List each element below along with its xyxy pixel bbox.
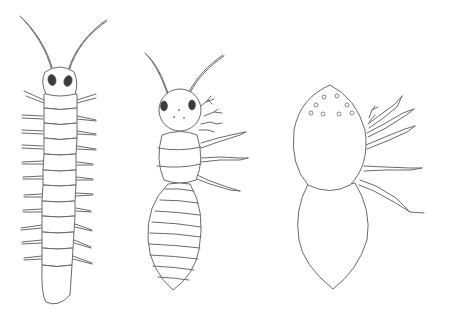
eye-icon bbox=[189, 100, 196, 110]
specimen-right bbox=[293, 85, 424, 289]
ocellus-dot bbox=[183, 117, 185, 119]
eye-icon bbox=[161, 101, 168, 111]
abdomen bbox=[148, 183, 201, 290]
legs-right bbox=[359, 96, 424, 213]
specimens-drawing bbox=[0, 0, 449, 321]
illustration-canvas: Line drawing of three arthropod-like cre… bbox=[0, 0, 449, 321]
right-antenna-icon bbox=[68, 20, 107, 71]
ocellus-dot bbox=[173, 116, 175, 118]
legs-right bbox=[194, 132, 248, 191]
right-antenna-icon bbox=[189, 55, 224, 93]
ocellus-dot bbox=[178, 109, 180, 111]
head-appendages bbox=[199, 96, 222, 132]
cephalothorax bbox=[293, 85, 366, 191]
specimen-left bbox=[20, 16, 107, 304]
legs-left bbox=[21, 91, 44, 260]
body-segments bbox=[42, 92, 77, 304]
thorax bbox=[159, 132, 201, 184]
left-antenna-icon bbox=[145, 53, 168, 93]
abdomen bbox=[298, 183, 368, 289]
left-antenna-icon bbox=[20, 16, 53, 71]
specimen-middle bbox=[145, 53, 248, 290]
